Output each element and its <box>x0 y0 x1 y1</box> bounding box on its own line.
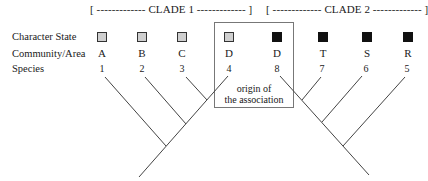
branch-species-7 <box>302 77 321 100</box>
branch-species-6 <box>322 76 362 122</box>
clade-2-tree <box>280 76 405 175</box>
branch-species-4 <box>139 76 228 177</box>
branch-species-1 <box>105 77 166 146</box>
branch-species-3 <box>186 77 207 100</box>
clade-1-tree <box>105 76 228 177</box>
branch-species-8 <box>280 76 369 175</box>
branch-species-2 <box>145 77 186 124</box>
